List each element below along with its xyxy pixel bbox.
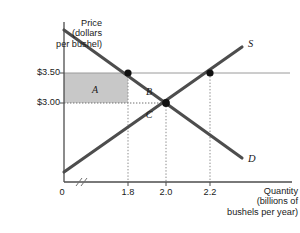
point-quantity-supplied [206,69,213,76]
x-tick-label-0: 0 [50,187,74,197]
y-tick-label-350: $3.50 [4,67,60,77]
area-label-c: C [140,109,158,120]
x-axis-title: Quantity (billions of bushels per year) [170,186,298,217]
supply-demand-figure: Price (dollars per bushel) Quantity (bil… [0,0,300,233]
point-quantity-demanded [124,69,131,76]
x-tick-label-20: 2.0 [154,187,178,197]
supply-curve-label: S [248,38,264,50]
point-equilibrium [162,99,170,107]
area-label-b: B [140,86,158,97]
x-tick-label-22: 2.2 [198,187,222,197]
demand-curve-label: D [248,153,264,165]
y-axis-title: Price (dollars per bushel) [0,18,102,49]
x-tick-label-18: 1.8 [116,187,140,197]
area-label-a: A [86,84,104,95]
y-tick-label-300: $3.00 [4,97,60,107]
